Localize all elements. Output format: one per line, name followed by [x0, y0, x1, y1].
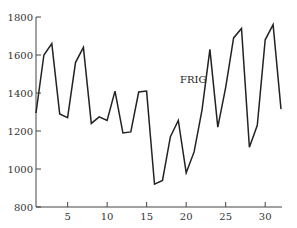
series-line-frig — [36, 25, 281, 185]
x-tick-label: 5 — [64, 211, 70, 222]
series-label: FRIG — [180, 74, 206, 85]
x-tick-label: 15 — [140, 211, 153, 222]
x-tick-label: 25 — [219, 211, 232, 222]
y-tick-label: 1800 — [8, 12, 33, 23]
x-tick-label: 30 — [259, 211, 272, 222]
annotations: FRIG — [180, 74, 206, 85]
y-tick-label: 1000 — [8, 164, 33, 175]
x-tick-label: 20 — [180, 211, 193, 222]
y-tick-label: 1200 — [8, 126, 33, 137]
x-tick-label: 10 — [101, 211, 114, 222]
series-lines — [36, 25, 281, 185]
y-tick-label: 1600 — [8, 50, 33, 61]
y-tick-label: 800 — [14, 202, 33, 213]
y-tick-label: 1400 — [8, 88, 33, 99]
x-axis: 51015202530 — [36, 202, 282, 222]
line-chart: 80010001200140016001800 51015202530 FRIG — [0, 0, 297, 228]
